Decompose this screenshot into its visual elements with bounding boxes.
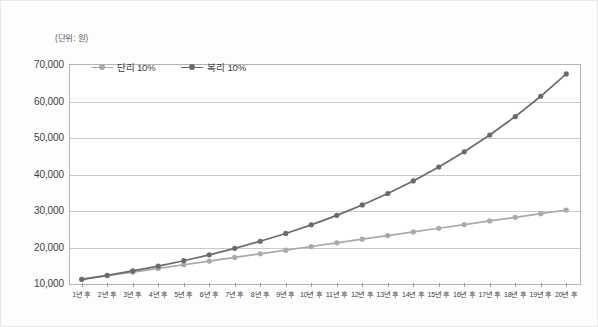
x-tick-label: 19년 후 [530, 289, 553, 299]
data-point-marker [360, 202, 365, 207]
data-point-marker [360, 237, 365, 242]
x-tick-label: 10년 후 [300, 289, 323, 299]
x-tick-label: 4년 후 [149, 289, 168, 299]
data-point-marker [487, 218, 492, 223]
x-tick-label: 8년 후 [251, 289, 270, 299]
x-tick [413, 283, 414, 287]
data-point-marker [309, 222, 314, 227]
x-tick-label: 18년 후 [504, 289, 527, 299]
x-tick-label: 14년 후 [402, 289, 425, 299]
x-tick-label: 13년 후 [377, 289, 400, 299]
x-tick-label: 6년 후 [200, 289, 219, 299]
data-point-marker [309, 244, 314, 249]
x-tick [82, 283, 83, 287]
y-axis: 10,00020,00030,00040,00050,00060,00070,0… [1, 1, 69, 327]
data-point-marker [105, 273, 110, 278]
y-tick-label: 70,000 [34, 59, 64, 70]
x-tick-label: 1년 후 [72, 289, 91, 299]
data-point-marker [156, 263, 161, 268]
legend-marker-icon [91, 63, 113, 72]
y-tick-label: 40,000 [34, 168, 64, 179]
data-point-marker [462, 222, 467, 227]
data-point-marker [538, 211, 543, 216]
data-point-marker [283, 248, 288, 253]
y-tick-label: 60,000 [34, 95, 64, 106]
data-point-marker [462, 149, 467, 154]
x-tick [260, 283, 261, 287]
x-tick [158, 283, 159, 287]
data-point-marker [538, 94, 543, 99]
x-tick-label: 12년 후 [351, 289, 374, 299]
data-point-marker [385, 191, 390, 196]
legend-marker-icon [181, 63, 203, 72]
data-point-marker [487, 132, 492, 137]
data-point-marker [207, 259, 212, 264]
interest-comparison-chart: (단위: 원) 10,00020,00030,00040,00050,00060… [0, 0, 598, 327]
data-point-marker [130, 268, 135, 273]
x-tick [286, 283, 287, 287]
data-point-marker [207, 252, 212, 257]
x-tick-label: 11년 후 [326, 289, 348, 299]
data-point-marker [411, 229, 416, 234]
x-tick [133, 283, 134, 287]
data-point-marker [385, 233, 390, 238]
y-tick-label: 30,000 [34, 205, 64, 216]
x-tick [209, 283, 210, 287]
data-point-marker [258, 239, 263, 244]
data-point-marker [232, 255, 237, 260]
series-layer [69, 64, 579, 283]
x-tick-label: 7년 후 [225, 289, 244, 299]
data-point-marker [334, 240, 339, 245]
x-tick [490, 283, 491, 287]
data-point-marker [564, 71, 569, 76]
x-tick [439, 283, 440, 287]
data-point-marker [79, 277, 84, 282]
x-tick [107, 283, 108, 287]
x-tick [566, 283, 567, 287]
data-point-marker [181, 258, 186, 263]
x-tick [311, 283, 312, 287]
legend-label: 단리 10% [117, 60, 155, 74]
x-tick-label: 17년 후 [479, 289, 502, 299]
x-tick [515, 283, 516, 287]
data-point-marker [258, 251, 263, 256]
data-point-marker [436, 164, 441, 169]
x-tick-label: 20년 후 [555, 289, 578, 299]
x-axis: 1년 후2년 후3년 후4년 후5년 후6년 후7년 후8년 후9년 후10년 … [69, 283, 579, 327]
x-tick-label: 3년 후 [123, 289, 142, 299]
legend-label: 복리 10% [207, 60, 245, 74]
x-tick-label: 9년 후 [276, 289, 295, 299]
x-tick [464, 283, 465, 287]
x-tick-label: 15년 후 [428, 289, 451, 299]
data-point-marker [564, 207, 569, 212]
data-point-marker [232, 246, 237, 251]
data-point-marker [411, 178, 416, 183]
legend-entry: 단리 10% [91, 60, 155, 74]
x-tick [388, 283, 389, 287]
data-point-marker [334, 213, 339, 218]
data-point-marker [513, 215, 518, 220]
x-tick-label: 5년 후 [174, 289, 193, 299]
data-point-marker [283, 231, 288, 236]
x-tick [541, 283, 542, 287]
data-point-marker [436, 226, 441, 231]
x-tick [184, 283, 185, 287]
x-tick [337, 283, 338, 287]
y-tick-label: 50,000 [34, 132, 64, 143]
y-tick-label: 20,000 [34, 241, 64, 252]
x-tick [362, 283, 363, 287]
x-tick-label: 16년 후 [453, 289, 476, 299]
chart-legend: 단리 10%복리 10% [87, 58, 250, 76]
data-point-marker [513, 114, 518, 119]
series-line [82, 74, 567, 279]
legend-entry: 복리 10% [181, 60, 245, 74]
x-tick [235, 283, 236, 287]
y-tick-label: 10,000 [34, 278, 64, 289]
x-tick-label: 2년 후 [98, 289, 117, 299]
